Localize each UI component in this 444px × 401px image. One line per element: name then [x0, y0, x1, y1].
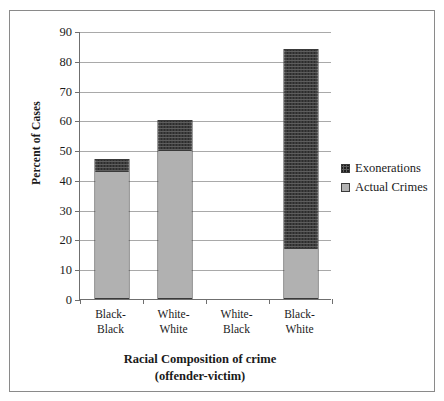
- bar-segment-actual-crimes-black-black[interactable]: [95, 172, 128, 298]
- bar-black-black[interactable]: [94, 159, 129, 299]
- x-axis-title-line-1: Racial Composition of crime: [50, 351, 350, 368]
- x-axis-title: Racial Composition of crime (offender-vi…: [50, 351, 350, 385]
- bar-segment-actual-crimes-white-white[interactable]: [158, 151, 191, 298]
- y-tick-label-90: 90: [60, 25, 73, 40]
- y-tick-label-30: 30: [60, 203, 73, 218]
- legend-item-actual-crimes[interactable]: Actual Crimes: [341, 178, 428, 197]
- y-tick-label-10: 10: [60, 263, 73, 278]
- chart-figure-frame: Percent of Cases 9080706050403020100 Bla…: [9, 10, 435, 392]
- x-tick-mark-0: [80, 299, 81, 304]
- x-tick-mark-4: [332, 299, 333, 304]
- x-tick-mark-3: [269, 299, 270, 304]
- x-tick-mark-2: [206, 299, 207, 304]
- x-axis-title-line-2: (offender-victim): [50, 368, 350, 385]
- y-tick-label-50: 50: [60, 144, 73, 159]
- bar-white-white[interactable]: [157, 120, 192, 299]
- bar-segment-exonerations-black-black[interactable]: [95, 160, 128, 172]
- chart-legend: Exonerations Actual Crimes: [341, 159, 428, 197]
- category-slot-white-black: [206, 32, 269, 299]
- y-tick-label-20: 20: [60, 233, 73, 248]
- y-tick-label-40: 40: [60, 173, 73, 188]
- y-tick-label-60: 60: [60, 114, 73, 129]
- plot-area: 9080706050403020100: [79, 32, 331, 300]
- y-tick-label-0: 0: [66, 293, 72, 308]
- y-axis-title: Percent of Cases: [30, 73, 42, 213]
- legend-swatch-exonerations-icon: [341, 164, 350, 173]
- y-tick-label-80: 80: [60, 54, 73, 69]
- bar-segment-exonerations-black-white[interactable]: [284, 50, 317, 250]
- legend-swatch-actual-crimes-icon: [341, 183, 350, 192]
- category-slot-black-white: [269, 32, 332, 299]
- legend-label-exonerations: Exonerations: [355, 159, 421, 178]
- y-tick-label-70: 70: [60, 84, 73, 99]
- legend-label-actual-crimes: Actual Crimes: [355, 178, 428, 197]
- x-axis-label-line-1: Black-: [263, 307, 337, 322]
- category-slot-black-black: [80, 32, 143, 299]
- bar-black-white[interactable]: [283, 49, 318, 299]
- legend-item-exonerations[interactable]: Exonerations: [341, 159, 428, 178]
- x-axis-label-black-white: Black-White: [263, 307, 337, 337]
- bar-segment-exonerations-white-white[interactable]: [158, 121, 191, 151]
- category-slot-white-white: [143, 32, 206, 299]
- x-tick-mark-1: [143, 299, 144, 304]
- bar-segment-actual-crimes-black-white[interactable]: [284, 249, 317, 298]
- x-axis-label-line-2: White: [263, 322, 337, 337]
